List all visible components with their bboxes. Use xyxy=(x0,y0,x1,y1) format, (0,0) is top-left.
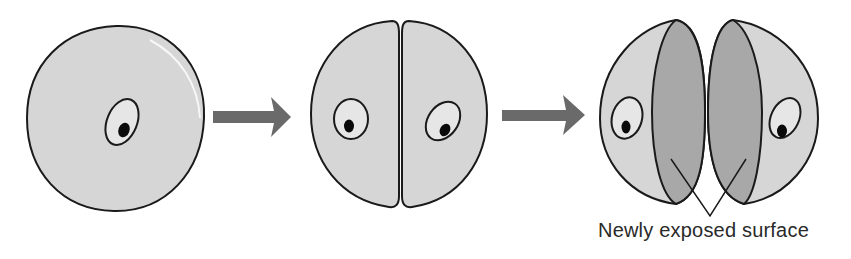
arrow-icon-2 xyxy=(502,95,585,135)
left-nucleolus xyxy=(622,121,631,134)
left-nucleus xyxy=(334,99,368,139)
arrow-icon-1 xyxy=(213,97,291,137)
stage-1-single-cell xyxy=(27,26,204,211)
left-nucleolus xyxy=(344,120,354,133)
right-nucleolus xyxy=(777,125,787,138)
stage-2-divided-cell xyxy=(311,21,487,207)
left-exposed-surface xyxy=(652,20,705,204)
stage-3-separated-halves xyxy=(600,20,818,216)
annotation-label: Newly exposed surface xyxy=(598,219,809,242)
